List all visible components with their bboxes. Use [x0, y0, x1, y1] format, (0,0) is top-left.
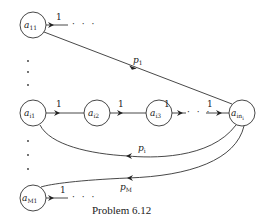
- figure-caption: Problem 6.12: [92, 204, 151, 216]
- svg-text:1: 1: [118, 99, 124, 109]
- edge-a11-out: 1 · · ·: [46, 12, 96, 29]
- markov-chain-diagram: a11 1 · · · p1 ai1 1 ai2 1 ai3: [0, 0, 265, 223]
- edge-pi: pi: [40, 125, 236, 159]
- node-aM1: aM1: [20, 185, 46, 211]
- vertical-ellipsis-bottom: [27, 140, 29, 170]
- edge-p1: p1: [44, 32, 232, 104]
- diagram-canvas: a11 1 · · · p1 ai1 1 ai2 1 ai3: [0, 0, 265, 223]
- svg-text:p1: p1: [133, 55, 143, 66]
- node-ai1: ai1: [20, 100, 46, 126]
- edge-ai1-ai2: 1: [46, 99, 84, 116]
- svg-text:· · ·: · · ·: [72, 192, 96, 202]
- svg-text:· · ·: · · ·: [72, 19, 96, 29]
- svg-text:pi: pi: [138, 143, 146, 154]
- svg-text:1: 1: [56, 99, 62, 109]
- svg-text:pM: pM: [120, 182, 132, 193]
- svg-text:1: 1: [164, 99, 170, 109]
- svg-text:1: 1: [60, 185, 66, 195]
- edge-pM: pM: [41, 126, 244, 193]
- edge-ai2-ai3: 1: [110, 99, 146, 116]
- vertical-ellipsis-top: [27, 60, 29, 86]
- node-ain: aini: [229, 100, 255, 126]
- node-ai2: ai2: [84, 100, 110, 126]
- svg-text:1: 1: [207, 99, 213, 109]
- node-a11: a11: [20, 12, 46, 38]
- svg-text:1: 1: [56, 12, 62, 22]
- edge-aM1-out: 1 · · ·: [46, 185, 96, 202]
